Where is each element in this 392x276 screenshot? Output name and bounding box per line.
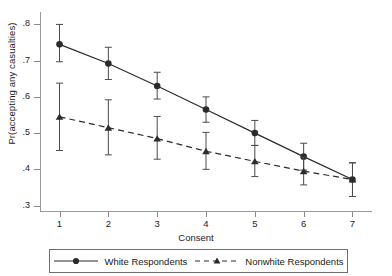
y-tick-mark [34, 24, 40, 25]
series-line [60, 44, 353, 179]
x-tick-mark [255, 212, 256, 217]
legend-entry-white[interactable]: White Respondents [53, 255, 187, 267]
y-tick-mark [34, 61, 40, 62]
x-tick-label: 7 [340, 219, 364, 229]
legend-label-nonwhite: Nonwhite Respondents [245, 256, 343, 267]
data-point-marker [202, 148, 210, 154]
y-tick-mark [34, 206, 40, 207]
x-tick-mark [304, 212, 305, 217]
x-tick-mark [352, 212, 353, 217]
series-circle [56, 24, 356, 196]
data-point-marker [251, 158, 259, 164]
data-point-marker [56, 113, 64, 119]
series-triangle [56, 83, 357, 196]
data-point-marker [300, 168, 308, 174]
data-point-marker [105, 124, 113, 130]
x-axis-label: Consent [0, 232, 392, 243]
y-tick-mark [34, 133, 40, 134]
legend-swatch-solid-circle-icon [53, 255, 99, 267]
y-tick-mark [34, 97, 40, 98]
chart-legend: White Respondents Nonwhite Respondents [49, 249, 348, 273]
legend-swatch-dashed-triangle-icon [194, 255, 240, 267]
x-tick-mark [157, 212, 158, 217]
data-point-marker [252, 130, 259, 137]
y-axis-line [40, 12, 41, 212]
data-point-marker [300, 153, 307, 160]
series-line [60, 117, 353, 180]
x-tick-label: 2 [96, 219, 120, 229]
data-point-marker [105, 60, 112, 67]
x-tick-mark [108, 212, 109, 217]
data-point-marker [154, 83, 161, 90]
data-point-marker [349, 176, 356, 183]
data-point-marker [56, 41, 63, 48]
y-axis-label: Pr(accepting any casualties) [6, 0, 17, 179]
x-tick-label: 5 [243, 219, 267, 229]
legend-label-white: White Respondents [104, 256, 187, 267]
x-tick-label: 3 [145, 219, 169, 229]
data-point-marker [349, 176, 357, 182]
x-tick-label: 4 [194, 219, 218, 229]
y-tick-mark [34, 169, 40, 170]
x-tick-mark [60, 212, 61, 217]
data-point-marker [203, 106, 210, 113]
x-tick-label: 1 [48, 219, 72, 229]
data-point-marker [153, 135, 161, 141]
legend-entry-nonwhite[interactable]: Nonwhite Respondents [194, 255, 343, 267]
x-tick-mark [206, 212, 207, 217]
y-tick-label: .3 [2, 201, 30, 210]
x-tick-label: 6 [292, 219, 316, 229]
chart-figure: .3.4.5.6.7.8 1234567 Pr(accepting any ca… [0, 0, 392, 276]
